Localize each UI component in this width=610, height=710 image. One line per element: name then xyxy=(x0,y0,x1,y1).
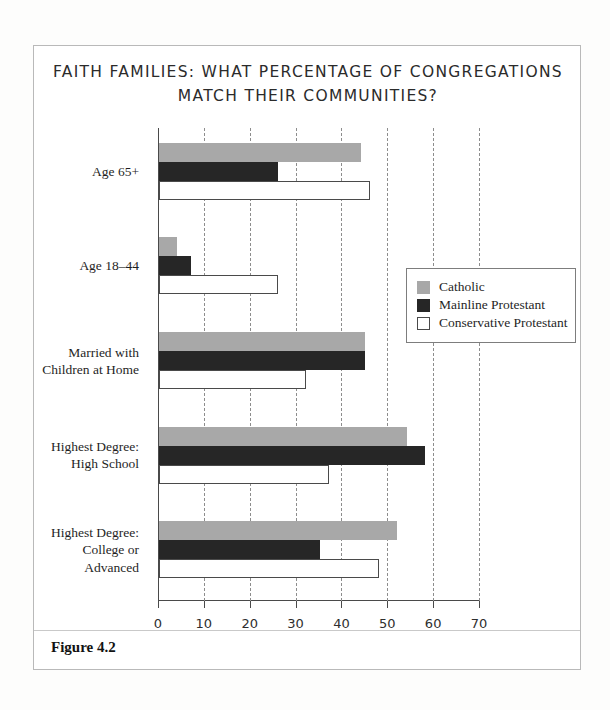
chart-title: FAITH FAMILIES: WHAT PERCENTAGE OF CONGR… xyxy=(52,60,564,108)
legend-swatch-conservative-icon xyxy=(417,317,430,330)
bar-catholic xyxy=(159,143,361,162)
category-label: Married withChildren at Home xyxy=(0,344,139,379)
plot-area: 010203040506070 Age 65+Age 18–44Married … xyxy=(158,128,479,601)
legend-swatch-catholic-icon xyxy=(417,281,430,294)
bar-catholic xyxy=(159,427,407,446)
bar-conservative xyxy=(159,465,329,484)
legend-item-conservative[interactable]: Conservative Protestant xyxy=(417,315,565,331)
x-tick-label-70: 70 xyxy=(471,616,488,631)
legend-swatch-mainline-icon xyxy=(417,299,430,312)
legend-label: Catholic xyxy=(439,279,485,295)
category-label: Age 18–44 xyxy=(0,257,139,274)
legend-label: Conservative Protestant xyxy=(439,315,568,331)
x-tick-10 xyxy=(204,601,205,608)
bar-group: Highest Degree:High School xyxy=(158,427,479,484)
legend-label: Mainline Protestant xyxy=(439,297,545,313)
category-label: Age 65+ xyxy=(0,163,139,180)
chart-title-line-2: MATCH THEIR COMMUNITIES? xyxy=(52,84,564,108)
bar-mainline xyxy=(159,446,425,465)
bar-mainline xyxy=(159,540,320,559)
legend-item-mainline[interactable]: Mainline Protestant xyxy=(417,297,565,313)
bar-mainline xyxy=(159,256,191,275)
legend-item-catholic[interactable]: Catholic xyxy=(417,279,565,295)
x-tick-0 xyxy=(158,601,159,608)
category-label: Highest Degree:College orAdvanced xyxy=(0,524,139,576)
x-tick-label-30: 30 xyxy=(287,616,304,631)
bar-catholic xyxy=(159,237,177,256)
x-axis-line xyxy=(158,600,479,601)
x-tick-label-50: 50 xyxy=(379,616,396,631)
x-tick-20 xyxy=(250,601,251,608)
bar-catholic xyxy=(159,332,365,351)
category-label: Highest Degree:High School xyxy=(0,438,139,473)
chart-legend: CatholicMainline ProtestantConservative … xyxy=(406,268,576,343)
page-background: FAITH FAMILIES: WHAT PERCENTAGE OF CONGR… xyxy=(0,0,610,710)
figure-panel: FAITH FAMILIES: WHAT PERCENTAGE OF CONGR… xyxy=(33,45,581,670)
x-tick-70 xyxy=(479,601,480,608)
x-tick-50 xyxy=(387,601,388,608)
x-tick-label-10: 10 xyxy=(196,616,213,631)
x-tick-label-0: 0 xyxy=(154,616,162,631)
figure-caption: Figure 4.2 xyxy=(51,639,116,656)
bar-mainline xyxy=(159,351,365,370)
x-tick-label-40: 40 xyxy=(333,616,350,631)
caption-divider xyxy=(34,630,580,631)
chart-title-line-1: FAITH FAMILIES: WHAT PERCENTAGE OF CONGR… xyxy=(53,63,563,81)
bar-conservative xyxy=(159,559,379,578)
x-tick-40 xyxy=(341,601,342,608)
bar-mainline xyxy=(159,162,278,181)
bar-conservative xyxy=(159,181,370,200)
bar-conservative xyxy=(159,275,278,294)
bar-group: Highest Degree:College orAdvanced xyxy=(158,521,479,578)
bar-catholic xyxy=(159,521,397,540)
bar-conservative xyxy=(159,370,306,389)
x-tick-60 xyxy=(433,601,434,608)
x-tick-label-60: 60 xyxy=(425,616,442,631)
x-tick-label-20: 20 xyxy=(241,616,258,631)
gridline-70 xyxy=(479,128,480,601)
bar-group: Age 65+ xyxy=(158,143,479,200)
x-tick-30 xyxy=(296,601,297,608)
